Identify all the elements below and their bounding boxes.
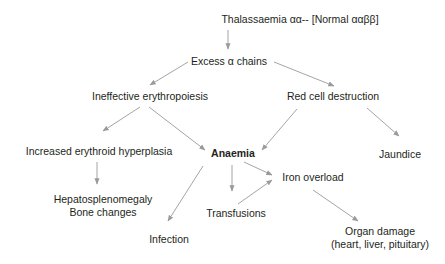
- arrow-excess-to-redcell: [274, 62, 334, 86]
- arrow-redcell-to-jaundice: [367, 108, 399, 136]
- node-iron-overload: Iron overload: [282, 171, 343, 184]
- organ-line-2: (heart, liver, pituitary): [331, 238, 429, 251]
- arrow-iron-to-organ: [313, 190, 358, 221]
- node-excess-alpha-chains: Excess α chains: [191, 55, 267, 68]
- node-red-cell-destruction: Red cell destruction: [287, 90, 379, 103]
- arrow-excess-to-ineffective: [150, 62, 188, 85]
- node-erythroid-hyperplasia: Increased erythroid hyperplasia: [26, 145, 173, 158]
- node-anaemia: Anaemia: [211, 147, 255, 160]
- thalassaemia-flowchart: Thalassaemia αα-- [Normal ααββ] Excess α…: [0, 0, 445, 264]
- arrow-transfusions-to-iron: [238, 180, 272, 204]
- node-jaundice: Jaundice: [379, 148, 421, 161]
- hepato-line-2: Bone changes: [54, 206, 153, 219]
- hepato-line-1: Hepatosplenomegaly: [54, 193, 153, 206]
- arrow-ineffective-to-hyperplasia: [103, 107, 140, 131]
- node-infection: Infection: [149, 233, 189, 246]
- arrow-ineffective-to-anaemia: [149, 107, 205, 150]
- arrow-redcell-to-anaemia: [262, 109, 297, 150]
- node-hepatosplenomegaly-bone-changes: Hepatosplenomegaly Bone changes: [54, 193, 153, 219]
- node-ineffective-erythropoiesis: Ineffective erythropoiesis: [92, 90, 208, 103]
- arrow-anaemia-to-iron: [244, 162, 272, 175]
- node-transfusions: Transfusions: [206, 207, 266, 220]
- organ-line-1: Organ damage: [331, 225, 429, 238]
- node-organ-damage: Organ damage (heart, liver, pituitary): [331, 225, 429, 251]
- node-thalassaemia-title: Thalassaemia αα-- [Normal ααββ]: [221, 13, 378, 26]
- arrow-anaemia-to-infection: [168, 166, 203, 221]
